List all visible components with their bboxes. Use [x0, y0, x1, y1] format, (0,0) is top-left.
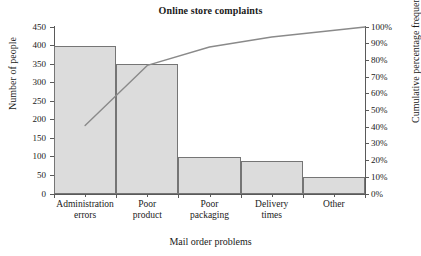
x-axis-tick [303, 194, 304, 198]
x-axis-category-label: Poorproduct [116, 199, 178, 221]
x-axis-tick [178, 194, 179, 198]
y-axis-right-tick [365, 110, 369, 111]
pareto-chart: Online store complaints 0501001502002503… [0, 0, 421, 256]
x-axis-title: Mail order problems [0, 236, 421, 247]
x-axis-tick [365, 194, 366, 198]
category-label-line: Poor [116, 199, 178, 210]
y-axis-right-tick-label: 40% [371, 123, 411, 132]
category-label-line: Other [303, 199, 365, 210]
y-axis-right-tick-label: 100% [371, 23, 411, 32]
bar [54, 46, 116, 194]
x-axis-category-label: Poorpackaging [178, 199, 240, 221]
category-label-line: times [241, 210, 303, 221]
y-axis-right-tick [365, 27, 369, 28]
y-axis-left-tick [50, 27, 54, 28]
x-axis-category-label: Administrationerrors [54, 199, 116, 221]
y-axis-right-tick [365, 43, 369, 44]
y-axis-right-tick-label: 10% [371, 173, 411, 182]
x-axis-center-tick [210, 194, 211, 197]
category-label-line: Poor [178, 199, 240, 210]
x-axis-center-tick [85, 194, 86, 197]
y-axis-right-tick-label: 0% [371, 190, 411, 199]
category-label-line: errors [54, 210, 116, 221]
bar [116, 64, 178, 194]
x-axis-center-tick [272, 194, 273, 197]
x-axis-tick [116, 194, 117, 198]
y-axis-right-tick-label: 20% [371, 156, 411, 165]
y-axis-right-tick-label: 80% [371, 56, 411, 65]
y-axis-right-tick-label: 50% [371, 106, 411, 115]
y-axis-left-tick-label: 0 [0, 190, 46, 199]
y-axis-right-tick-label: 90% [371, 39, 411, 48]
y-axis-right-tick-label: 60% [371, 89, 411, 98]
x-axis-center-tick [334, 194, 335, 197]
category-label-line: product [116, 210, 178, 221]
y-axis-right-tick [365, 60, 369, 61]
y-axis-left-tick-label: 50 [0, 171, 46, 180]
y-axis-right-title: Cumulative percentage frequency [410, 0, 421, 136]
y-axis-right-tick [365, 143, 369, 144]
x-axis-tick [54, 194, 55, 198]
y-axis-right-tick [365, 77, 369, 78]
y-axis-left-tick-label: 150 [0, 134, 46, 143]
x-axis-category-label: Other [303, 199, 365, 210]
bar [241, 161, 303, 194]
x-axis-center-tick [147, 194, 148, 197]
x-axis-tick [241, 194, 242, 198]
category-label-line: packaging [178, 210, 240, 221]
y-axis-left-tick-label: 100 [0, 152, 46, 161]
y-axis-right-tick [365, 160, 369, 161]
y-axis-right-tick [365, 127, 369, 128]
x-axis-category-label: Deliverytimes [241, 199, 303, 221]
y-axis-right-tick-label: 70% [371, 73, 411, 82]
category-label-line: Delivery [241, 199, 303, 210]
y-axis-right-tick-label: 30% [371, 139, 411, 148]
bar [303, 177, 365, 194]
y-axis-left-title: Number of people [7, 14, 18, 134]
chart-title: Online store complaints [0, 5, 421, 16]
bar [178, 157, 240, 194]
y-axis-right-tick [365, 177, 369, 178]
category-label-line: Administration [54, 199, 116, 210]
y-axis-right-tick [365, 93, 369, 94]
